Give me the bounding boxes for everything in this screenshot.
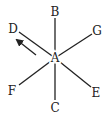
label-point-f: F bbox=[8, 84, 16, 98]
label-point-d: D bbox=[8, 22, 18, 36]
label-point-c: C bbox=[50, 101, 59, 115]
spoke-line-e bbox=[55, 58, 91, 87]
spoke-line-f bbox=[19, 58, 55, 85]
label-point-g: G bbox=[92, 24, 102, 38]
label-point-b: B bbox=[51, 5, 60, 19]
label-point-e: E bbox=[92, 86, 101, 100]
label-center-a: A bbox=[50, 51, 60, 65]
force-diagram: BGDFEC A bbox=[0, 0, 109, 120]
spoke-line-g bbox=[55, 34, 92, 58]
spoke-line-d bbox=[19, 32, 55, 58]
